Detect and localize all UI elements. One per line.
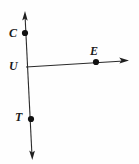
point-dot-E — [93, 59, 99, 65]
point-label-C: C — [9, 27, 17, 39]
point-dot-T — [28, 116, 34, 122]
line-group-horizontal — [26, 58, 129, 67]
geometry-diagram-svg — [0, 0, 139, 164]
point-markers — [22, 30, 99, 122]
arrowhead-right-icon — [119, 58, 129, 64]
geometry-figure-canvas: C U T E — [0, 0, 139, 164]
horizontal-ray-UE — [26, 61, 124, 67]
point-label-E: E — [90, 45, 98, 57]
vertical-line-CUT — [25, 15, 32, 156]
point-label-U: U — [9, 60, 18, 72]
point-label-T: T — [15, 111, 22, 123]
point-dot-C — [22, 30, 28, 36]
